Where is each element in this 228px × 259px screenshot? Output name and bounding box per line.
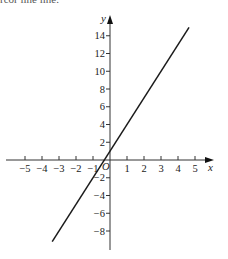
x-tick-label: −5 <box>19 163 30 174</box>
y-tick-label: −6 <box>94 208 105 219</box>
y-axis-label: y <box>100 12 106 24</box>
x-tick-label: 1 <box>124 163 129 174</box>
y-tick-label: −4 <box>94 190 106 201</box>
y-axis-arrow-icon <box>107 15 113 24</box>
x-tick-label: −2 <box>70 163 81 174</box>
y-tick-label: 6 <box>100 101 105 112</box>
x-tick-label: 3 <box>158 163 163 174</box>
x-axis-label: x <box>207 161 213 173</box>
x-tick-label: 2 <box>141 163 146 174</box>
line-series <box>52 27 189 241</box>
y-tick-label: 10 <box>95 66 106 77</box>
y-tick-label: −8 <box>94 226 105 237</box>
y-tick-label: 8 <box>100 84 105 95</box>
y-tick-label: 4 <box>100 119 106 130</box>
y-tick-label: 14 <box>95 30 106 41</box>
line-graph: xyO−5−4−3−2−1123451412108642−2−4−6−8 <box>0 0 228 259</box>
x-tick-label: −4 <box>36 163 48 174</box>
x-tick-label: 4 <box>175 163 181 174</box>
x-tick-label: 5 <box>192 163 197 174</box>
y-tick-label: 2 <box>100 137 105 148</box>
y-tick-label: 12 <box>95 48 106 59</box>
x-tick-label: −3 <box>53 163 64 174</box>
